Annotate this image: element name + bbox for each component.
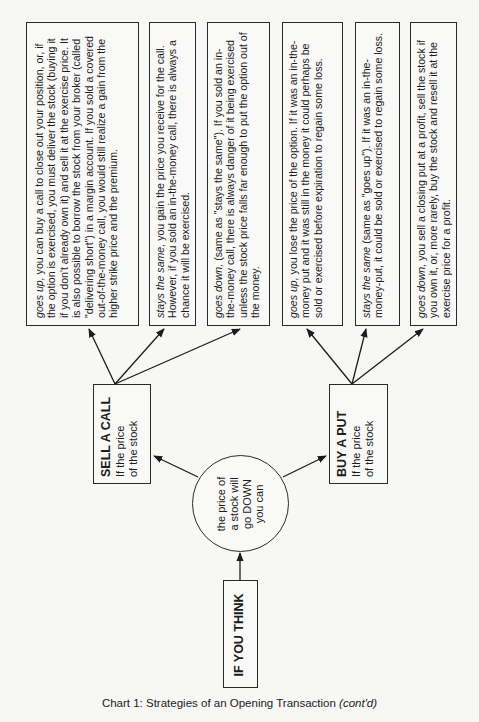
sell-a-call-box: SELL A CALL If the price of the stock xyxy=(93,384,151,484)
call-outcome-goes-down-box: goes down, (same as "stays the same"). I… xyxy=(207,22,270,326)
call-outcome-stays-same-box: stays the same, you gain the price you r… xyxy=(149,22,196,326)
outcome-lead: goes up, xyxy=(287,277,299,318)
outcome-lead: stays the same, xyxy=(154,244,166,318)
strategy-subtitle-line: If the price xyxy=(114,391,127,477)
caption-main: Chart 1: Strategies of an Opening Transa… xyxy=(102,697,339,709)
strategy-title: BUY A PUT xyxy=(335,391,350,477)
condition-line: go DOWN xyxy=(241,466,254,542)
condition-line: a stock will xyxy=(228,466,241,542)
outcome-lead: goes down, xyxy=(415,264,427,318)
condition-line: the price of xyxy=(215,466,228,542)
condition-line: you can xyxy=(253,466,266,542)
strategy-subtitle-line: of the stock xyxy=(363,391,376,477)
figure-caption: Chart 1: Strategies of an Opening Transa… xyxy=(0,697,479,709)
diagram-canvas: goes up, you can buy a call to close out… xyxy=(0,0,479,722)
put-outcome-stays-same-box: stays the same (same as "goes up"). If i… xyxy=(355,22,400,326)
strategy-subtitle-line: If the price xyxy=(350,391,363,477)
strategy-title: SELL A CALL xyxy=(99,391,114,477)
condition-circle: the price of a stock will go DOWN you ca… xyxy=(192,455,289,552)
caption-italic: (cont'd) xyxy=(339,697,377,709)
strategy-subtitle-line: of the stock xyxy=(127,391,140,477)
buy-a-put-box: BUY A PUT If the price of the stock xyxy=(329,384,388,484)
outcome-text: you lose the price of the option. If it … xyxy=(287,41,324,318)
outcome-lead: stays the same xyxy=(360,247,372,318)
outcome-lead: goes up, xyxy=(33,277,45,318)
outcome-text: you can buy a call to close out your pos… xyxy=(33,36,119,318)
put-outcome-goes-down-box: goes down, you sell a closing put at a p… xyxy=(410,22,457,326)
outcome-lead: goes down, xyxy=(212,264,224,318)
call-outcome-goes-up-box: goes up, you can buy a call to close out… xyxy=(26,22,139,326)
root-label: IF YOU THINK xyxy=(232,587,250,683)
put-outcome-goes-up-box: goes up, you lose the price of the optio… xyxy=(282,22,343,326)
if-you-think-box: IF YOU THINK xyxy=(223,580,258,688)
